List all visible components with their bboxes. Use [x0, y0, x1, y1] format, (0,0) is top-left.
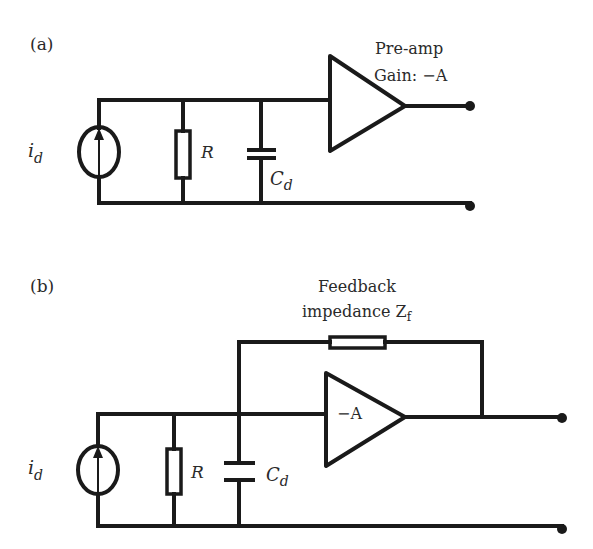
panel-a: (a) id R Cd Pre-amp Gain: −A	[28, 34, 475, 211]
ground-terminal-icon	[465, 201, 475, 211]
resistor-label: R	[190, 462, 204, 482]
resistor-r-icon	[167, 449, 181, 494]
feedback-impedance-zf-icon	[330, 337, 385, 348]
panel-b-label: (b)	[30, 276, 54, 296]
feedback-label-line2: impedance Zf	[302, 302, 413, 324]
bottom-wire	[98, 494, 562, 526]
top-wire	[98, 414, 326, 446]
feedback-label-line1: Feedback	[318, 277, 396, 296]
capacitor-cd-icon	[249, 150, 274, 158]
capacitor-label: Cd	[270, 168, 293, 193]
output-terminal-icon	[465, 101, 475, 111]
source-label-id: id	[28, 139, 43, 166]
resistor-r-icon	[176, 131, 190, 178]
amp-title-line2: Gain: −A	[374, 66, 448, 85]
resistor-label: R	[200, 142, 214, 162]
ground-terminal-icon	[557, 524, 567, 534]
output-terminal-icon	[557, 413, 567, 423]
capacitor-cd-icon	[226, 463, 253, 480]
amp-gain-label: −A	[337, 404, 362, 423]
capacitor-label: Cd	[266, 464, 289, 489]
panel-b: (b) id R Cd −A Feedback impedance Zf	[28, 276, 567, 534]
circuit-diagram: (a) id R Cd Pre-amp Gain: −A (b)	[0, 0, 593, 549]
amp-title-line1: Pre-amp	[375, 39, 443, 58]
top-wire	[99, 100, 330, 128]
source-label-id: id	[28, 456, 43, 483]
panel-a-label: (a)	[30, 34, 53, 54]
arrow-up-icon	[94, 128, 104, 140]
